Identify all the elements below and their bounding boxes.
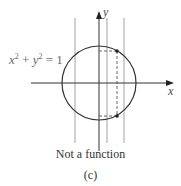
y-axis-label: y — [103, 5, 108, 20]
subfigure-label: (c) — [0, 168, 181, 183]
intersection-point — [115, 114, 119, 118]
x-axis-label: x — [168, 84, 173, 99]
y-axis-arrow-icon — [96, 11, 102, 19]
equation-label: x2 + y2 = 1 — [9, 52, 63, 68]
caption: Not a function — [0, 147, 181, 162]
intersection-point — [115, 49, 119, 53]
